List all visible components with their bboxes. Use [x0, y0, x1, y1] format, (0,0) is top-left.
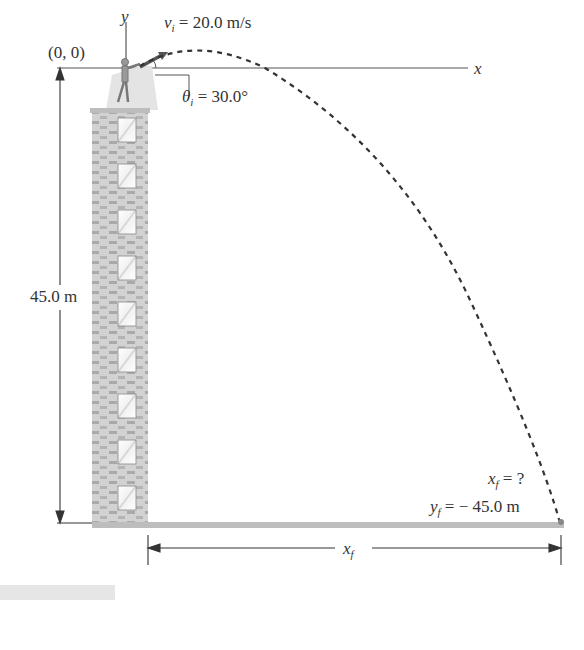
- building: [90, 66, 158, 523]
- range-label: xf: [343, 540, 354, 560]
- final-x-label: xf = ?: [488, 470, 524, 490]
- angle-arc: [153, 60, 156, 68]
- x-axis-label: x: [474, 60, 482, 77]
- final-y-label: yf = − 45.0 m: [430, 498, 520, 518]
- range-dimension: [148, 535, 561, 565]
- initial-velocity-label: vi = 20.0 m/s: [164, 14, 251, 34]
- projectile-diagram: [0, 0, 584, 650]
- y-axis-label: y: [121, 8, 129, 25]
- origin-label: (0, 0): [48, 44, 85, 61]
- launch-angle-label: θi = 30.0°: [182, 88, 248, 108]
- ground: [92, 522, 564, 528]
- windows: [118, 118, 136, 510]
- caption-bar: [0, 585, 115, 600]
- trajectory-path: [140, 50, 560, 523]
- height-label: 45.0 m: [30, 288, 77, 305]
- landing-point: [558, 519, 564, 525]
- rooftop-shaft: [106, 66, 158, 110]
